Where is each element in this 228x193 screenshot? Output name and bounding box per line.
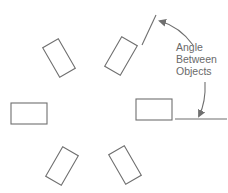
angle-ray-upper <box>142 15 156 45</box>
object-top-left <box>43 39 76 77</box>
label-line-2: Between <box>176 53 228 65</box>
object-top-right <box>105 37 138 75</box>
angle-diagram <box>0 0 228 193</box>
object-right <box>136 99 172 120</box>
label-line-1: Angle <box>176 41 228 53</box>
arrow-to-horizontal-ray <box>199 82 205 116</box>
label-line-3: Objects <box>176 65 228 77</box>
object-bottom-right <box>109 146 142 184</box>
object-left <box>11 103 47 124</box>
angle-between-objects-label: Angle Between Objects <box>176 41 228 77</box>
object-bottom-left <box>46 147 79 185</box>
